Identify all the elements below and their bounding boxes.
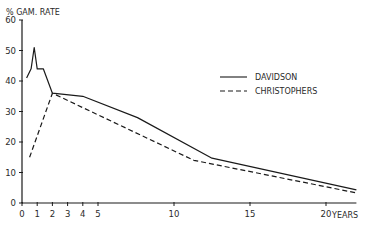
legend: DAVIDSON CHRISTOPHERS <box>220 73 317 96</box>
x-tick-label: 2 <box>50 209 55 219</box>
y-axis-title: % GAM. RATE <box>6 8 60 17</box>
x-tick-label: 5 <box>95 209 100 219</box>
x-tick-label: 15 <box>245 209 256 219</box>
series-line-davidson <box>27 48 357 190</box>
x-axis-title: YEARS <box>331 211 358 220</box>
x-tick-label: 1 <box>34 209 39 219</box>
y-tick-label: 40 <box>5 76 16 86</box>
legend-label-davidson: DAVIDSON <box>255 73 297 82</box>
legend-label-christophers: CHRISTOPHERS <box>255 87 317 96</box>
x-tick-label: 10 <box>169 209 180 219</box>
x-tick-label: 0 <box>19 209 24 219</box>
x-tick-label: 3 <box>65 209 70 219</box>
y-tick-label: 20 <box>5 137 16 147</box>
x-tick-label: 20 <box>321 209 332 219</box>
y-tick-label: 30 <box>5 107 16 117</box>
series-group <box>27 48 357 193</box>
y-tick-label: 0 <box>11 198 16 208</box>
line-chart: 0102030405060012345101520 % GAM. RATE YE… <box>0 0 371 225</box>
x-tick-label: 4 <box>80 209 85 219</box>
axes: 0102030405060012345101520 <box>5 15 356 219</box>
y-tick-label: 50 <box>5 46 16 56</box>
series-line-christophers <box>30 93 357 193</box>
y-tick-label: 10 <box>5 168 16 178</box>
